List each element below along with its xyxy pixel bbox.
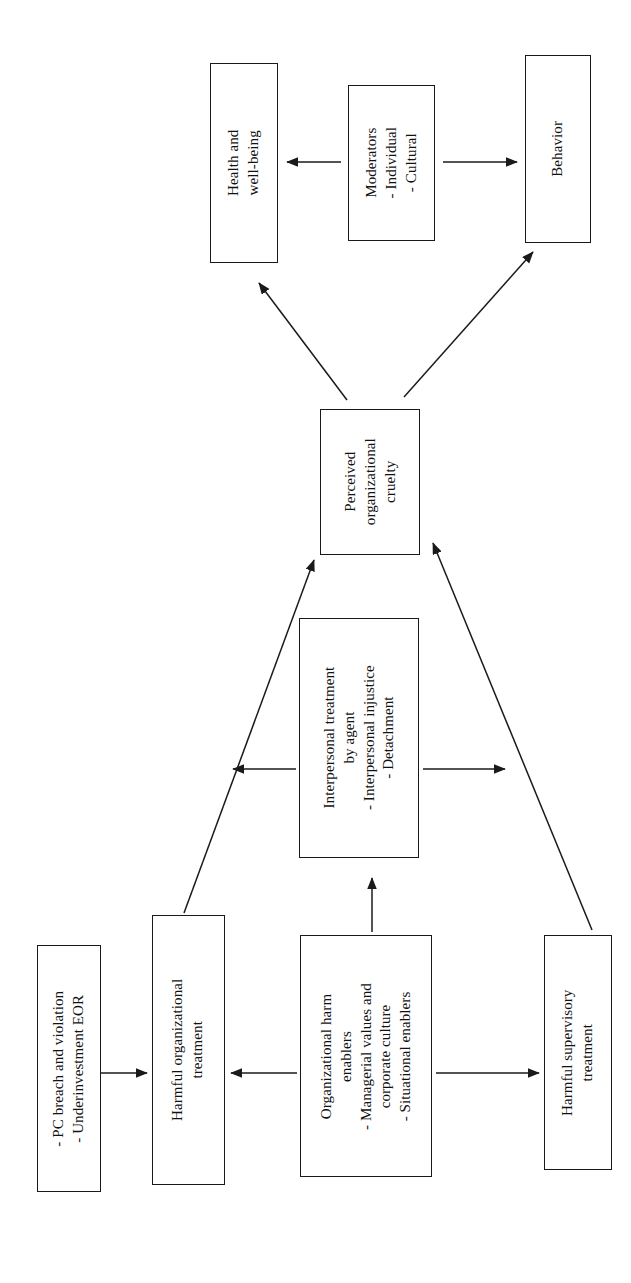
harmful-organizational-treatment-label: Harmful organizational treatment	[169, 979, 209, 1121]
pc-breach-and-underinvestment-box[interactable]: - PC breach and violation - Underinvestm…	[37, 945, 101, 1192]
perceived-organizational-cruelty-box[interactable]: Perceived organizational cruelty	[320, 409, 420, 555]
arrow-cruelty-to-behavior	[404, 252, 533, 397]
health-and-well-being-label: Health and well-being	[224, 130, 264, 196]
moderators-box[interactable]: Moderators - Individual - Cultural	[348, 85, 435, 241]
harmful-organizational-treatment-box[interactable]: Harmful organizational treatment	[152, 915, 225, 1185]
interpersonal-treatment-by-agent-label: Interpersonal treatment by agent - Inter…	[319, 666, 398, 811]
behavior-box[interactable]: Behavior	[525, 55, 591, 243]
arrow-harmful-supervisory-to-cruelty	[433, 543, 592, 930]
moderators-label: Moderators - Individual - Cultural	[362, 127, 421, 199]
pc-breach-and-underinvestment-label: - PC breach and violation - Underinvestm…	[49, 991, 89, 1147]
diagram-canvas: Health and well-being Moderators - Indiv…	[0, 0, 631, 1283]
organizational-harm-enablers-label: Organizational harm enablers - Manageria…	[317, 983, 416, 1130]
health-and-well-being-box[interactable]: Health and well-being	[210, 63, 278, 263]
behavior-label: Behavior	[548, 121, 568, 177]
arrow-cruelty-to-health	[259, 283, 347, 400]
harmful-supervisory-treatment-box[interactable]: Harmful supervisory treatment	[544, 935, 612, 1170]
organizational-harm-enablers-box[interactable]: Organizational harm enablers - Manageria…	[300, 935, 432, 1177]
perceived-organizational-cruelty-label: Perceived organizational cruelty	[340, 439, 399, 526]
interpersonal-treatment-by-agent-box[interactable]: Interpersonal treatment by agent - Inter…	[299, 618, 419, 858]
harmful-supervisory-treatment-label: Harmful supervisory treatment	[558, 989, 598, 1115]
arrow-harmful-org-treatment-to-cruelty	[184, 560, 314, 913]
